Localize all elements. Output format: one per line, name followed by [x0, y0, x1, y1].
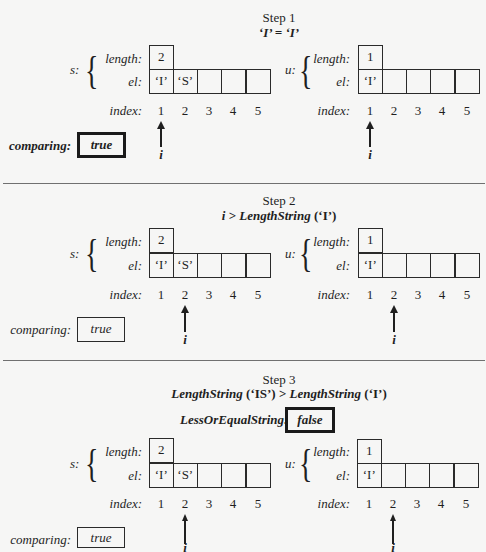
result-value-box: false: [285, 407, 335, 433]
length-cell: 1: [358, 228, 383, 253]
index-3: 3: [406, 288, 430, 302]
pointer-label: i: [180, 541, 190, 552]
el-cell-1: ‘I’: [357, 463, 382, 488]
el-cell-1: ‘I’: [149, 69, 174, 94]
el-cell-2: ‘S’: [173, 463, 198, 488]
length-cell: 1: [357, 439, 382, 464]
index-label: index:: [82, 288, 142, 302]
length-cell: 2: [149, 438, 174, 463]
el-cell-4: [430, 69, 455, 94]
pointer-label: i: [389, 333, 399, 347]
index-5: 5: [455, 104, 479, 118]
index-3: 3: [405, 497, 429, 511]
pointer-label: i: [365, 148, 375, 162]
index-3: 3: [406, 104, 430, 118]
el-cell-3: [197, 69, 222, 94]
el-cell-1: ‘I’: [358, 69, 383, 94]
el-cell-5: [246, 463, 271, 488]
index-5: 5: [246, 104, 270, 118]
el-cell-4: [221, 69, 246, 94]
index-4: 4: [221, 288, 245, 302]
el-label: el:: [82, 469, 142, 483]
index-4: 4: [430, 104, 454, 118]
el-cell-3: [406, 253, 431, 278]
step-title: Step 2: [0, 194, 486, 208]
el-cell-5: [246, 69, 271, 94]
index-3: 3: [197, 288, 221, 302]
divider: [3, 183, 485, 184]
step-condition: LengthString (‘IS’) > LengthString (‘I’): [0, 387, 486, 401]
el-cell-4: [221, 463, 246, 488]
index-4: 4: [221, 104, 245, 118]
index-1: 1: [149, 104, 173, 118]
el-cell-5: [455, 69, 480, 94]
index-1: 1: [358, 104, 382, 118]
el-cell-5: [246, 253, 271, 278]
index-2: 2: [173, 497, 197, 511]
index-5: 5: [246, 288, 270, 302]
length-cell: 2: [149, 45, 174, 70]
comparing-value-box: true: [77, 527, 125, 548]
step-title: Step 3: [0, 373, 486, 387]
comparing-value-box: true: [77, 317, 125, 342]
index-label: index:: [290, 497, 350, 511]
index-5: 5: [246, 497, 270, 511]
el-cell-2: ‘S’: [173, 69, 198, 94]
el-cell-5: [455, 253, 480, 278]
pointer-label: i: [180, 333, 190, 347]
index-2: 2: [382, 288, 406, 302]
length-label: length:: [82, 52, 142, 66]
el-cell-2: [381, 463, 406, 488]
length-label: length:: [82, 235, 142, 249]
variable-name-s: s:: [70, 457, 79, 471]
el-cell-3: [197, 253, 222, 278]
el-cell-4: [430, 253, 455, 278]
index-2: 2: [382, 104, 406, 118]
comparing-label: comparing:: [1, 323, 71, 337]
el-label: el:: [290, 469, 350, 483]
result-label: LessOrEqualString:: [180, 413, 288, 427]
el-cell-5: [454, 463, 479, 488]
el-cell-3: [406, 69, 431, 94]
index-2: 2: [173, 288, 197, 302]
length-label: length:: [82, 445, 142, 459]
length-cell: 1: [358, 45, 383, 70]
index-4: 4: [221, 497, 245, 511]
el-cell-2: [382, 253, 407, 278]
index-1: 1: [149, 288, 173, 302]
el-cell-1: ‘I’: [149, 463, 174, 488]
index-3: 3: [197, 104, 221, 118]
step-title: Step 1: [0, 11, 486, 25]
index-4: 4: [429, 497, 453, 511]
comparing-label: comparing:: [1, 139, 71, 153]
index-2: 2: [173, 104, 197, 118]
divider: [3, 360, 485, 361]
index-4: 4: [430, 288, 454, 302]
pointer-label: i: [388, 541, 398, 552]
pointer-label: i: [156, 148, 166, 162]
index-label: index:: [290, 288, 350, 302]
index-3: 3: [197, 497, 221, 511]
length-label: length:: [290, 235, 350, 249]
index-1: 1: [149, 497, 173, 511]
length-label: length:: [290, 445, 350, 459]
el-label: el:: [82, 75, 142, 89]
index-label: index:: [290, 104, 350, 118]
variable-name-s: s:: [70, 247, 79, 261]
el-cell-3: [197, 463, 222, 488]
index-1: 1: [358, 288, 382, 302]
index-5: 5: [455, 288, 479, 302]
el-label: el:: [290, 259, 350, 273]
el-label: el:: [82, 259, 142, 273]
el-cell-4: [429, 463, 454, 488]
index-label: index:: [82, 104, 142, 118]
variable-name-s: s:: [70, 63, 79, 77]
length-label: length:: [290, 52, 350, 66]
comparing-label: comparing:: [1, 533, 71, 547]
step-condition: i > LengthString (‘I’): [0, 209, 486, 223]
index-5: 5: [454, 497, 478, 511]
el-cell-2: [382, 69, 407, 94]
step-condition: ‘I’ = ‘I’: [0, 26, 486, 40]
comparing-value-box: true: [77, 132, 126, 158]
el-cell-1: ‘I’: [358, 253, 383, 278]
